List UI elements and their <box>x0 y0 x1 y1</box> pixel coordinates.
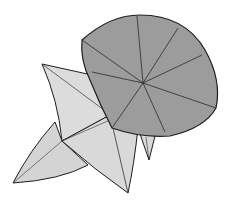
stem <box>140 134 155 160</box>
